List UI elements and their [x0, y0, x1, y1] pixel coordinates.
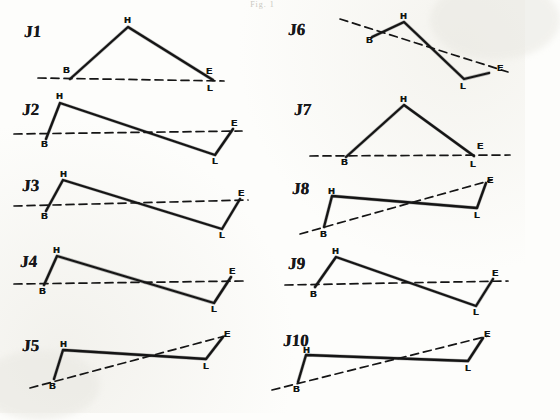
panel-label-j9: J9: [287, 254, 305, 274]
dashed-reference-line: [38, 78, 224, 81]
vertex-label-h-j6: H: [400, 12, 407, 21]
vertex-label-h-j10: H: [303, 346, 310, 355]
dashed-reference-line: [14, 281, 244, 284]
solid-profile-line: [44, 256, 231, 303]
vertex-label-b-j4: B: [39, 287, 46, 296]
vertex-label-h-j5: H: [60, 340, 67, 349]
vertex-label-l-j10: L: [465, 364, 471, 373]
vertex-label-h-j1: H: [124, 16, 131, 25]
solid-profile-line: [70, 27, 213, 80]
panel-label-j7: J7: [293, 100, 311, 120]
vertex-label-b-j7: B: [341, 158, 348, 167]
solid-profile-line: [46, 180, 240, 229]
vertex-label-e-j4: E: [229, 267, 235, 276]
vertex-label-b-j10: B: [293, 385, 300, 394]
vertex-label-b-j6: B: [366, 36, 373, 45]
vertex-label-h-j4: H: [53, 246, 60, 255]
panel-label-j3: J3: [21, 176, 39, 196]
vertex-label-e-j3: E: [238, 189, 244, 198]
panel-label-j1: J1: [23, 22, 41, 42]
vertex-label-b-j3: B: [41, 212, 48, 221]
vertex-label-h-j3: H: [60, 170, 67, 179]
vertex-label-b-j2: B: [41, 140, 48, 149]
panel-label-j5: J5: [21, 336, 39, 356]
vertex-label-b-j8: B: [320, 230, 327, 239]
panel-j2: [14, 103, 242, 155]
panel-label-j2: J2: [21, 100, 39, 120]
vertex-label-l-j7: L: [470, 160, 476, 169]
solid-profile-line: [46, 103, 233, 155]
vertex-label-b-j5: B: [49, 382, 56, 391]
panel-label-j8: J8: [291, 179, 309, 199]
vertex-label-e-j9: E: [492, 269, 498, 278]
vertex-label-b-j9: B: [310, 290, 317, 299]
panel-j6: [340, 19, 508, 79]
vertex-label-l-j3: L: [219, 231, 225, 240]
vertex-label-h-j2: H: [56, 92, 63, 101]
panel-label-j4: J4: [19, 252, 37, 272]
vertex-label-l-j5: L: [203, 362, 209, 371]
vertex-label-e-j8: E: [487, 176, 493, 185]
vertex-label-e-j5: E: [224, 330, 230, 339]
vertex-label-h-j7: H: [400, 95, 407, 104]
vertex-label-l-j2: L: [212, 157, 218, 166]
vertex-label-e-j6: E: [497, 64, 503, 73]
vertex-label-b-j1: B: [63, 66, 70, 75]
panel-j3: [14, 180, 248, 229]
solid-profile-line-shadow: [346, 105, 474, 157]
solid-profile-line-shadow: [372, 22, 489, 79]
vertex-label-l-j9: L: [473, 308, 479, 317]
vertex-label-e-j10: E: [484, 330, 490, 339]
vertex-label-e-j2: E: [231, 119, 237, 128]
panel-j9: [285, 257, 508, 306]
vertex-label-l-j4: L: [211, 305, 217, 314]
vertex-label-l-j8: L: [474, 211, 480, 220]
dashed-reference-line: [310, 155, 510, 156]
dashed-reference-line: [340, 19, 508, 72]
vertex-label-h-j8: H: [328, 187, 335, 196]
panel-label-j6: J6: [287, 20, 305, 40]
panel-j4: [14, 256, 244, 303]
vertex-label-h-j9: H: [332, 247, 339, 256]
vertex-label-l-j6: L: [460, 82, 466, 91]
vertex-label-e-j7: E: [477, 142, 483, 151]
vertex-label-l-j1: L: [207, 84, 213, 93]
solid-profile-line: [346, 105, 474, 157]
vertex-label-e-j1: E: [206, 67, 212, 76]
